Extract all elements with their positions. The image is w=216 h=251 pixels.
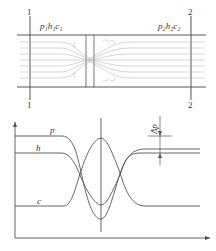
curve-c-label: c — [37, 196, 41, 206]
delta-p-label: Δp — [149, 124, 159, 135]
x-axis-arrow-icon — [205, 236, 211, 240]
section-1-top-label: 1 — [27, 7, 32, 17]
section-2-top-label: 2 — [188, 7, 193, 17]
state-2-label: p₂h₂c₂ — [157, 21, 180, 31]
delta-p-arrow-icon — [158, 153, 162, 158]
curve-h — [15, 149, 200, 205]
curve-p-label: p — [49, 125, 55, 135]
state-1-label: p₁h₁c₁ — [39, 21, 62, 31]
section-1-bottom-label: 1 — [27, 100, 32, 110]
y-axis-arrow-icon — [13, 121, 17, 127]
curve-c — [15, 138, 200, 206]
section-2-bottom-label: 2 — [188, 100, 193, 110]
curve-p — [15, 136, 200, 219]
orifice-flow-diagram: 1 1 2 2 p₁h₁c₁ p₂h₂c₂ p h c Δp — [0, 0, 216, 251]
streamlines — [20, 40, 205, 81]
curve-h-label: h — [36, 143, 41, 153]
profile-chart — [13, 116, 211, 240]
